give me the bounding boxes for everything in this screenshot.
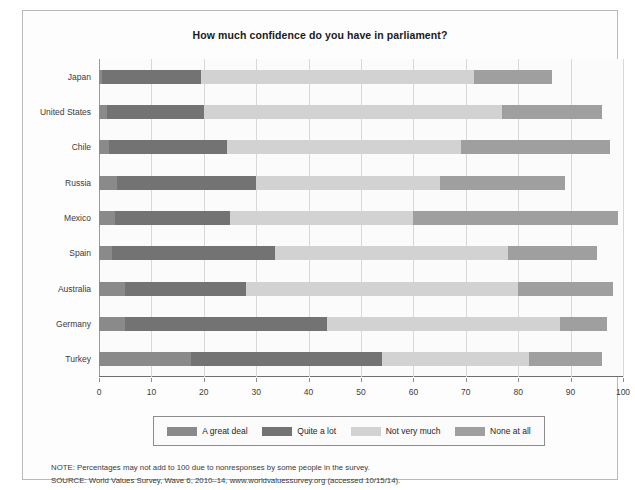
- bar-segment-not-very-much[interactable]: [204, 105, 503, 119]
- bar-segment-not-very-much[interactable]: [227, 140, 460, 154]
- x-tick-label: 0: [97, 387, 102, 397]
- bar-segment-quite-a-lot[interactable]: [191, 352, 382, 366]
- x-tick-label: 30: [251, 387, 260, 397]
- bar-segment-not-very-much[interactable]: [275, 246, 508, 260]
- legend-label: A great deal: [202, 426, 247, 436]
- category-label-russia: Russia: [65, 178, 91, 188]
- x-tick: [99, 378, 100, 382]
- x-tick: [466, 378, 467, 382]
- chart-legend: A great dealQuite a lotNot very muchNone…: [153, 416, 545, 446]
- x-tick: [571, 378, 572, 382]
- x-tick-label: 90: [566, 387, 575, 397]
- legend-label: Quite a lot: [297, 426, 336, 436]
- x-tick-label: 60: [409, 387, 418, 397]
- x-tick-label: 70: [461, 387, 470, 397]
- category-label-turkey: Turkey: [65, 354, 91, 364]
- x-tick-label: 80: [513, 387, 522, 397]
- bar-segment-none-at-all[interactable]: [560, 317, 607, 331]
- bar-segment-not-very-much[interactable]: [382, 352, 529, 366]
- x-tick: [204, 378, 205, 382]
- bar-segment-a-great-deal[interactable]: [99, 211, 115, 225]
- bar-row[interactable]: [99, 140, 623, 154]
- bar-segment-a-great-deal[interactable]: [99, 317, 125, 331]
- bar-row[interactable]: [99, 105, 623, 119]
- x-tick-label: 20: [199, 387, 208, 397]
- plot-area: 0102030405060708090100JapanUnited States…: [99, 59, 623, 377]
- bar-segment-quite-a-lot[interactable]: [115, 211, 230, 225]
- bar-segment-none-at-all[interactable]: [461, 140, 610, 154]
- bar-segment-quite-a-lot[interactable]: [102, 70, 202, 84]
- bar-segment-quite-a-lot[interactable]: [107, 105, 204, 119]
- bar-segment-quite-a-lot[interactable]: [112, 246, 274, 260]
- legend-label: Not very much: [386, 426, 441, 436]
- bar-segment-a-great-deal[interactable]: [99, 246, 112, 260]
- figure-frame: How much confidence do you have in parli…: [22, 10, 618, 480]
- x-tick: [256, 378, 257, 382]
- category-label-chile: Chile: [72, 142, 91, 152]
- legend-label: None at all: [490, 426, 531, 436]
- legend-item-quite-a-lot[interactable]: Quite a lot: [262, 426, 336, 436]
- bar-segment-not-very-much[interactable]: [246, 282, 518, 296]
- bar-segment-a-great-deal[interactable]: [99, 352, 191, 366]
- x-tick: [361, 378, 362, 382]
- legend-swatch: [455, 427, 485, 436]
- bar-segment-a-great-deal[interactable]: [99, 176, 117, 190]
- bar-row[interactable]: [99, 282, 623, 296]
- bar-segment-not-very-much[interactable]: [230, 211, 413, 225]
- category-label-spain: Spain: [69, 248, 91, 258]
- bar-segment-none-at-all[interactable]: [508, 246, 597, 260]
- bar-segment-none-at-all[interactable]: [440, 176, 566, 190]
- x-tick: [309, 378, 310, 382]
- x-gridline: [623, 59, 624, 377]
- category-label-mexico: Mexico: [64, 213, 91, 223]
- x-tick: [151, 378, 152, 382]
- bar-segment-a-great-deal[interactable]: [99, 105, 107, 119]
- bar-row[interactable]: [99, 352, 623, 366]
- bar-segment-none-at-all[interactable]: [413, 211, 617, 225]
- x-tick-label: 100: [616, 387, 630, 397]
- bar-segment-none-at-all[interactable]: [529, 352, 602, 366]
- note-line-1: NOTE: Percentages may not add to 100 due…: [51, 462, 370, 474]
- x-tick: [623, 378, 624, 382]
- x-tick-label: 40: [304, 387, 313, 397]
- legend-item-none-at-all[interactable]: None at all: [455, 426, 531, 436]
- x-tick: [518, 378, 519, 382]
- bar-segment-none-at-all[interactable]: [502, 105, 602, 119]
- bar-segment-a-great-deal[interactable]: [99, 282, 125, 296]
- bar-row[interactable]: [99, 317, 623, 331]
- x-tick: [413, 378, 414, 382]
- chart-title: How much confidence do you have in parli…: [23, 29, 617, 41]
- bar-segment-not-very-much[interactable]: [201, 70, 473, 84]
- bar-segment-none-at-all[interactable]: [518, 282, 612, 296]
- bar-segment-quite-a-lot[interactable]: [125, 317, 327, 331]
- bar-segment-a-great-deal[interactable]: [99, 140, 109, 154]
- x-tick-label: 50: [356, 387, 365, 397]
- bar-segment-none-at-all[interactable]: [474, 70, 553, 84]
- note-line-2: SOURCE: World Values Survey, Wave 6, 201…: [51, 475, 400, 487]
- category-label-germany: Germany: [56, 319, 91, 329]
- category-label-united-states: United States: [40, 107, 91, 117]
- category-label-australia: Australia: [58, 284, 91, 294]
- bar-row[interactable]: [99, 70, 623, 84]
- legend-item-a-great-deal[interactable]: A great deal: [167, 426, 247, 436]
- bar-segment-quite-a-lot[interactable]: [125, 282, 246, 296]
- category-label-japan: Japan: [68, 72, 91, 82]
- bar-row[interactable]: [99, 211, 623, 225]
- bar-segment-quite-a-lot[interactable]: [109, 140, 227, 154]
- bar-segment-quite-a-lot[interactable]: [117, 176, 256, 190]
- bar-row[interactable]: [99, 176, 623, 190]
- bar-row[interactable]: [99, 246, 623, 260]
- legend-swatch: [351, 427, 381, 436]
- legend-item-not-very-much[interactable]: Not very much: [351, 426, 441, 436]
- x-tick-label: 10: [147, 387, 156, 397]
- bar-segment-not-very-much[interactable]: [327, 317, 560, 331]
- legend-swatch: [262, 427, 292, 436]
- chart-page: How much confidence do you have in parli…: [0, 0, 635, 490]
- bar-segment-not-very-much[interactable]: [256, 176, 439, 190]
- legend-swatch: [167, 427, 197, 436]
